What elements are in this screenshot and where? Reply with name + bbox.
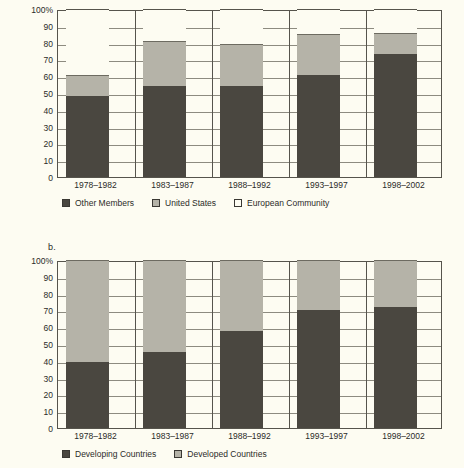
bar-segment: [220, 9, 263, 44]
chart-panel-a: 100%9080706050403020100 1978–19821983–19…: [0, 0, 464, 228]
bar-segment: [66, 362, 109, 428]
legend-label: Other Members: [75, 198, 134, 208]
y-axis-labels-b: 100%9080706050403020100: [19, 261, 53, 429]
bar-segment: [374, 307, 417, 428]
y-tick-label: 20: [44, 391, 53, 400]
legend-swatch-icon: [234, 199, 242, 207]
stacked-bar: [143, 260, 186, 428]
legend-item: United States: [152, 198, 216, 208]
bar-segment: [297, 260, 340, 310]
category-separator: [135, 11, 136, 177]
y-tick-label: 10: [44, 408, 53, 417]
legend-label: European Community: [247, 198, 329, 208]
x-axis-label: 1993–1997: [288, 431, 365, 441]
stacked-bar: [297, 9, 340, 177]
bar-segment: [374, 9, 417, 33]
legend-label: Developed Countries: [187, 449, 266, 459]
y-tick-label: 20: [44, 140, 53, 149]
legend-item: Other Members: [62, 198, 134, 208]
legend-label: United States: [165, 198, 216, 208]
bar-segment: [220, 44, 263, 86]
stacked-bar: [374, 9, 417, 177]
category-separator: [289, 11, 290, 177]
x-axis-label: 1978–1982: [57, 431, 134, 441]
stacked-bar: [374, 260, 417, 428]
category-separator: [366, 11, 367, 177]
x-axis-label: 1998–2002: [365, 431, 442, 441]
x-axis-label: 1988–1992: [211, 431, 288, 441]
y-tick-label: 40: [44, 107, 53, 116]
plot-area-a: [57, 10, 442, 178]
bar-segment: [66, 75, 109, 97]
bar-segment: [143, 352, 186, 428]
legend-swatch-icon: [174, 450, 182, 458]
legend-swatch-icon: [152, 199, 160, 207]
bar-segment: [297, 75, 340, 177]
bar-segment: [220, 86, 263, 177]
legend-swatch-icon: [62, 450, 70, 458]
bar-segment: [220, 331, 263, 428]
x-axis-label: 1983–1987: [134, 431, 211, 441]
x-axis-label: 1978–1982: [57, 180, 134, 190]
bar-segment: [143, 86, 186, 177]
y-tick-label: 70: [44, 56, 53, 65]
y-tick-label: 100%: [31, 257, 53, 266]
y-axis-labels-a: 100%9080706050403020100: [19, 10, 53, 178]
bar-segment: [297, 310, 340, 428]
y-tick-label: 0: [48, 425, 53, 434]
chart-panel-b: b. 100%9080706050403020100 1978–19821983…: [0, 234, 464, 468]
bar-segment: [374, 54, 417, 177]
plot-area-b: [57, 261, 442, 429]
bar-segment: [374, 260, 417, 307]
y-tick-label: 90: [44, 23, 53, 32]
y-tick-label: 90: [44, 274, 53, 283]
y-tick-label: 30: [44, 374, 53, 383]
legend-item: European Community: [234, 198, 329, 208]
y-tick-label: 50: [44, 90, 53, 99]
bar-segment: [220, 260, 263, 331]
bar-segment: [297, 9, 340, 34]
category-separator: [135, 262, 136, 428]
bar-segment: [297, 34, 340, 74]
stacked-bar: [66, 260, 109, 428]
legend-label: Developing Countries: [75, 449, 156, 459]
y-tick-label: 80: [44, 39, 53, 48]
y-tick-label: 0: [48, 174, 53, 183]
x-axis-label: 1993–1997: [288, 180, 365, 190]
stacked-bar: [220, 260, 263, 428]
legend-a: Other MembersUnited StatesEuropean Commu…: [62, 198, 347, 208]
y-tick-label: 100%: [31, 6, 53, 15]
y-tick-label: 70: [44, 307, 53, 316]
y-tick-label: 60: [44, 73, 53, 82]
y-tick-label: 30: [44, 123, 53, 132]
x-axis-label: 1998–2002: [365, 180, 442, 190]
category-separator: [289, 262, 290, 428]
stacked-bar: [297, 260, 340, 428]
stacked-bar: [220, 9, 263, 177]
y-tick-label: 40: [44, 358, 53, 367]
legend-b: Developing CountriesDeveloped Countries: [62, 449, 285, 459]
legend-item: Developed Countries: [174, 449, 266, 459]
legend-item: Developing Countries: [62, 449, 156, 459]
y-tick-label: 60: [44, 324, 53, 333]
category-separator: [212, 11, 213, 177]
category-separator: [366, 262, 367, 428]
x-axis-label: 1988–1992: [211, 180, 288, 190]
bar-segment: [143, 9, 186, 41]
panel-b-letter: b.: [48, 242, 56, 252]
category-separator: [212, 262, 213, 428]
y-tick-label: 10: [44, 157, 53, 166]
stacked-bar: [66, 9, 109, 177]
bar-segment: [143, 260, 186, 352]
stacked-bar: [143, 9, 186, 177]
legend-swatch-icon: [62, 199, 70, 207]
bar-segment: [66, 260, 109, 362]
y-tick-label: 80: [44, 290, 53, 299]
x-axis-label: 1983–1987: [134, 180, 211, 190]
bar-segment: [66, 9, 109, 75]
bar-segment: [374, 33, 417, 55]
bar-segment: [143, 41, 186, 86]
y-tick-label: 50: [44, 341, 53, 350]
bar-segment: [66, 96, 109, 177]
